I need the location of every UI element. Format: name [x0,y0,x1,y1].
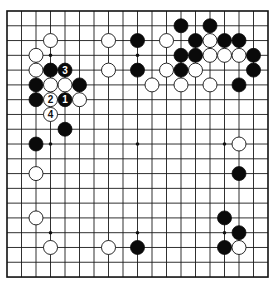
black-stone [29,137,43,151]
white-stone [203,34,217,48]
white-stone [44,34,58,48]
black-stone-disc [218,240,232,254]
white-stone-disc [29,48,43,62]
white-stone-disc [102,34,116,48]
black-stone [58,122,72,136]
black-stone-disc [131,34,145,48]
white-stone-disc [44,78,58,92]
white-stone [29,63,43,77]
white-stone [29,167,43,181]
white-stone [218,48,232,62]
white-stone [160,34,174,48]
black-stone-disc [44,63,58,77]
black-stone [247,48,261,62]
black-stone [174,63,188,77]
black-stone [174,48,188,62]
white-stone [174,78,188,92]
go-board-diagram: 3214 [0,0,272,293]
stones-layer: 3214 [29,19,261,255]
black-stone [232,226,246,240]
white-stone-disc [29,211,43,225]
black-stone [73,78,87,92]
black-stone [131,63,145,77]
black-stone [174,19,188,33]
move-number-label: 1 [62,94,68,105]
black-stone: 3 [58,63,72,77]
black-stone-disc [203,19,217,33]
white-stone-disc [232,48,246,62]
white-stone-disc [174,78,188,92]
black-stone-disc [247,63,261,77]
white-stone [58,78,72,92]
white-stone [203,48,217,62]
black-stone-disc [29,137,43,151]
black-stone-disc [232,34,246,48]
move-number-label: 4 [48,109,54,120]
black-stone-disc [232,78,246,92]
black-stone [189,34,203,48]
star-point [49,54,53,58]
white-stone [44,240,58,254]
move-number-label: 3 [62,65,68,76]
black-stone-disc [131,63,145,77]
star-point [136,231,140,235]
black-stone [44,63,58,77]
white-stone [232,48,246,62]
white-stone-disc [203,34,217,48]
white-stone-disc [203,48,217,62]
black-stone-disc [131,240,145,254]
star-point [49,231,53,235]
star-point [136,54,140,58]
white-stone-disc [203,78,217,92]
white-stone [232,137,246,151]
black-stone-disc [58,122,72,136]
white-stone-disc [58,78,72,92]
white-stone [145,78,159,92]
star-point [223,142,227,146]
go-board: 3214 [0,0,272,293]
black-stone [247,63,261,77]
white-stone-disc [29,63,43,77]
black-stone [131,34,145,48]
black-stone [131,240,145,254]
white-stone [29,211,43,225]
black-stone [232,78,246,92]
star-point [136,142,140,146]
black-stone-disc [232,226,246,240]
black-stone-disc [29,78,43,92]
white-stone [160,63,174,77]
black-stone [189,48,203,62]
white-stone-disc [102,63,116,77]
white-stone [102,240,116,254]
black-stone [203,19,217,33]
black-stone [29,78,43,92]
black-stone-disc [29,93,43,107]
white-stone [189,63,203,77]
white-stone-disc [160,63,174,77]
white-stone: 4 [44,107,58,121]
black-stone-disc [174,19,188,33]
black-stone: 1 [58,93,72,107]
black-stone-disc [73,78,87,92]
white-stone-disc [29,167,43,181]
star-point [223,231,227,235]
white-stone-disc [232,137,246,151]
white-stone-disc [189,63,203,77]
black-stone-disc [218,34,232,48]
white-stone-disc [73,93,87,107]
black-stone-disc [189,34,203,48]
white-stone [102,63,116,77]
star-point [49,142,53,146]
black-stone-disc [189,48,203,62]
white-stone [203,78,217,92]
black-stone-disc [232,167,246,181]
black-stone [29,93,43,107]
white-stone-disc [44,240,58,254]
white-stone-disc [160,34,174,48]
black-stone-disc [218,211,232,225]
white-stone [73,93,87,107]
black-stone [218,240,232,254]
white-stone-disc [44,34,58,48]
black-stone [218,211,232,225]
white-stone [44,78,58,92]
